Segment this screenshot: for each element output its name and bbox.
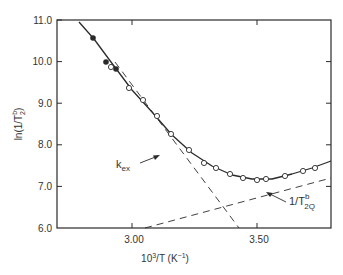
x-tick-label: 3.00	[124, 234, 144, 245]
x-axis-ticks	[132, 20, 257, 228]
data-point-open	[240, 175, 245, 180]
y-tick-label: 6.0	[38, 223, 52, 234]
data-point-open	[168, 131, 173, 136]
kex-arrowhead-icon	[153, 155, 160, 160]
y-axis-title: ln(1/Tb2)	[11, 108, 26, 141]
data-point-open	[227, 171, 232, 176]
data-point-open	[126, 85, 131, 90]
y-tick-label: 9.0	[38, 98, 52, 109]
data-point-open	[154, 113, 159, 118]
chart: 11.0 10.0 9.0 8.0 7.0 6.0 3.00 3.50 103/…	[0, 0, 343, 275]
data-point-open	[263, 176, 268, 181]
data-point-open	[108, 64, 113, 69]
y-tick-labels: 11.0 10.0 9.0 8.0 7.0 6.0	[33, 15, 53, 234]
kex-dashed-line	[115, 62, 239, 228]
data-point-open	[282, 173, 287, 178]
t2q-label: 1/Tb2Q	[289, 192, 315, 211]
data-point-open	[312, 165, 317, 170]
y-tick-label: 11.0	[33, 15, 52, 26]
y-tick-label: 10.0	[33, 56, 53, 67]
data-point-open	[201, 160, 206, 165]
data-point-open	[140, 97, 145, 102]
x-tick-label: 3.50	[249, 234, 269, 245]
y-tick-label: 7.0	[38, 181, 52, 192]
data-point-filled	[103, 59, 109, 65]
fit-curve	[79, 22, 331, 179]
kex-annotation: kex	[116, 155, 160, 173]
data-point-filled	[90, 35, 96, 41]
data-point-open	[300, 168, 305, 173]
kex-label: kex	[116, 158, 130, 173]
data-point-open	[186, 147, 191, 152]
data-point-open	[254, 177, 259, 182]
open-markers	[108, 64, 317, 182]
data-point-open	[213, 165, 218, 170]
x-axis-title: 103/T (K−1)	[141, 252, 189, 264]
y-tick-label: 8.0	[38, 139, 52, 150]
x-tick-labels: 3.00 3.50	[124, 234, 269, 245]
t2q-annotation: 1/Tb2Q	[266, 192, 315, 211]
